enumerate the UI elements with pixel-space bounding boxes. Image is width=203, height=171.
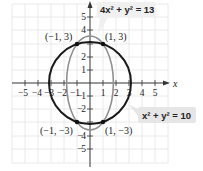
point-se [101,120,105,124]
y-axis-arrow-icon [88,1,93,8]
y-tick-label: 4 [81,25,86,35]
point-label-sw: (−1, −3) [40,125,73,137]
x-tick-label: −4 [32,88,42,98]
x-tick-label: −2 [57,88,67,98]
point-label-se: (1, −3) [105,125,132,137]
x-tick-label: 1 [101,88,106,98]
y-tick-label: 5 [81,12,86,22]
x-axis-arrow-icon [163,81,170,86]
x-tick-label: 3 [127,88,132,98]
x-tick-label: −5 [18,88,28,98]
point-label-ne: (1, 3) [105,31,127,43]
x-tick-label: 5 [153,88,158,98]
y-tick-label: 2 [81,52,86,62]
point-ne [101,42,105,46]
point-sw [75,120,79,124]
ellipse-equation-label: 4x² + y² = 13 [100,4,154,15]
y-tick-minus: − [77,144,82,154]
chart: −5 −4 −3 −2 −1 1 2 3 4 5 5 4 2 1 1 2 4 5… [0,0,203,171]
y-tick-minus: − [77,91,82,101]
x-axis-label: x [172,78,178,89]
y-tick-minus: − [77,131,82,141]
x-tick-label: −3 [44,88,54,98]
axes [12,5,166,167]
x-tick-label: 4 [140,88,145,98]
y-tick-minus: − [77,104,82,114]
point-nw [75,42,79,46]
x-tick-label: 2 [114,88,119,98]
point-label-nw: (−1, 3) [45,31,72,43]
circle-equation-label: x² + y² = 10 [142,110,191,121]
y-tick-label: 1 [81,65,86,75]
